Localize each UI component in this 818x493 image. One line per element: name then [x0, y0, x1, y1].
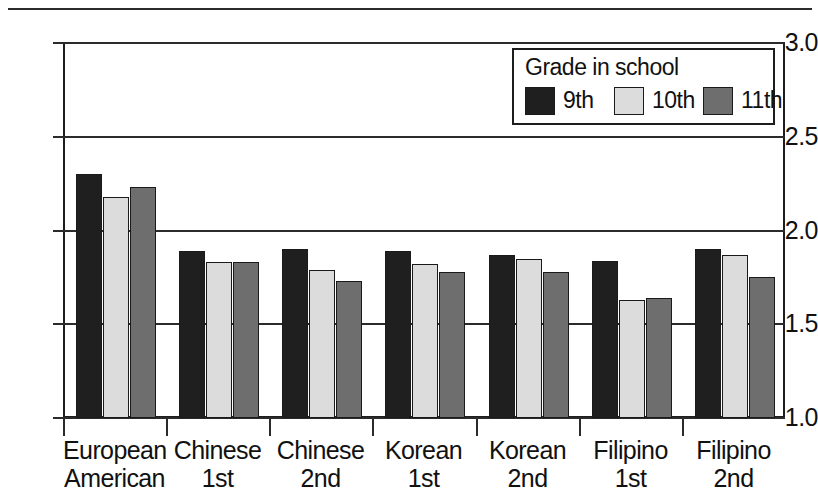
x-tick-mark: [682, 419, 684, 436]
legend-label-11th: 11th: [741, 87, 782, 114]
legend-items: 9th10th11th: [525, 85, 771, 119]
y-tick-label: 1.5: [766, 311, 818, 336]
x-axis-label: Korean1st: [372, 436, 475, 492]
x-axis-label-line1: Chinese: [174, 436, 262, 464]
x-axis-label-line2: 2nd: [476, 464, 579, 492]
x-axis-label-line2: 2nd: [682, 464, 785, 492]
legend-swatch-10th: [614, 87, 644, 115]
x-axis-label: Korean2nd: [476, 436, 579, 492]
gridline-1.0: [63, 417, 785, 419]
x-tick-mark: [63, 419, 65, 436]
y-tick-mark: [53, 136, 64, 138]
bar-chart-figure: 3.02.52.01.51.0 EuropeanAmericanChinese1…: [0, 0, 818, 493]
y-tick-label: 2.0: [766, 218, 818, 243]
x-tick-mark: [476, 419, 478, 436]
gridline-3.0: [63, 42, 785, 44]
x-tick-mark: [166, 419, 168, 436]
x-tick-mark: [372, 419, 374, 436]
x-axis-label: Filipino1st: [579, 436, 682, 492]
y-tick-mark: [53, 323, 64, 325]
gridline-2.0: [63, 230, 785, 232]
legend-swatch-11th: [703, 87, 733, 115]
y-tick-mark: [53, 42, 64, 44]
legend-title: Grade in school: [525, 54, 679, 80]
x-axis-label-line1: Korean: [385, 436, 462, 464]
legend-swatch-9th: [525, 87, 555, 115]
legend-label-9th: 9th: [563, 87, 593, 114]
x-axis-label-line1: Filipino: [696, 436, 770, 464]
x-axis-label: Filipino2nd: [682, 436, 785, 492]
y-tick-mark: [53, 230, 64, 232]
x-tick-mark: [579, 419, 581, 436]
x-axis-label-line2: 1st: [579, 464, 682, 492]
x-axis-label-line2: 1st: [372, 464, 475, 492]
x-axis-label: Chinese2nd: [269, 436, 372, 492]
y-tick-label: 2.5: [766, 124, 818, 149]
x-tick-mark: [269, 419, 271, 436]
x-axis-label-line2: 2nd: [269, 464, 372, 492]
y-tick-label: 1.0: [766, 405, 818, 430]
x-axis-label: Chinese1st: [166, 436, 269, 492]
gridline-2.5: [63, 136, 785, 138]
gridline-1.5: [63, 323, 785, 325]
legend-label-10th: 10th: [652, 87, 695, 114]
x-axis-label-line1: Korean: [489, 436, 566, 464]
x-axis-label-line1: Filipino: [593, 436, 667, 464]
x-axis-label-line2: American: [63, 464, 166, 492]
legend: Grade in school 9th10th11th: [512, 48, 775, 125]
x-axis-label-line1: Chinese: [277, 436, 365, 464]
x-axis-label-line2: 1st: [166, 464, 269, 492]
x-axis-label: EuropeanAmerican: [63, 436, 166, 492]
x-axis-label-line1: European: [63, 436, 167, 464]
top-divider-rule: [8, 8, 812, 10]
